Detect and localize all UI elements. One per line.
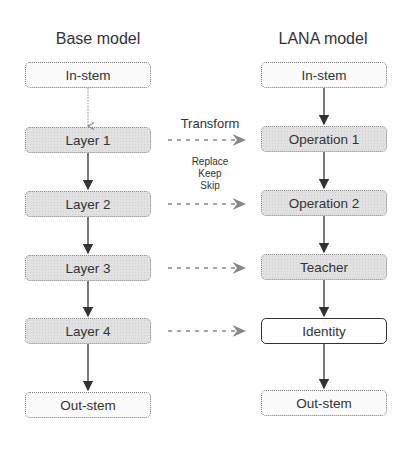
connectors bbox=[0, 0, 413, 457]
